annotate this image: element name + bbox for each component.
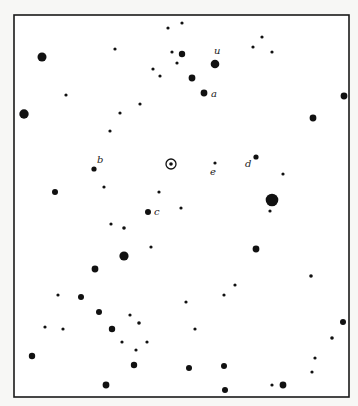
star-dot bbox=[233, 283, 236, 286]
star-dot bbox=[92, 266, 99, 273]
star-dot bbox=[340, 319, 346, 325]
star-dot bbox=[91, 166, 96, 171]
star-dot bbox=[128, 313, 131, 316]
star-dot bbox=[189, 75, 196, 82]
star-dot bbox=[180, 21, 183, 24]
star-dot bbox=[280, 382, 287, 389]
star-dot bbox=[175, 61, 178, 64]
star-dot bbox=[213, 161, 216, 164]
star-dot bbox=[221, 363, 227, 369]
star-dot bbox=[145, 209, 151, 215]
star-dot bbox=[268, 209, 271, 212]
star-dot bbox=[52, 189, 58, 195]
star-dot bbox=[120, 340, 123, 343]
star-dot bbox=[38, 53, 47, 62]
star-dot bbox=[43, 325, 46, 328]
star-dot bbox=[179, 51, 185, 57]
star-dot bbox=[166, 26, 169, 29]
star-dot bbox=[211, 60, 220, 69]
star-dot bbox=[29, 353, 35, 359]
star-dot bbox=[270, 50, 273, 53]
star-dot bbox=[201, 90, 208, 97]
star-dot bbox=[109, 326, 115, 332]
star-dot bbox=[61, 327, 64, 330]
star-dot bbox=[253, 154, 258, 159]
star-dot bbox=[281, 172, 284, 175]
star-dot bbox=[170, 50, 173, 53]
star-dot bbox=[151, 67, 154, 70]
star-dot bbox=[138, 102, 141, 105]
star-dot bbox=[341, 93, 348, 100]
star-dot bbox=[149, 245, 152, 248]
star-dot bbox=[109, 222, 112, 225]
star-dot bbox=[260, 35, 263, 38]
star-dot bbox=[122, 226, 126, 230]
star-dot bbox=[113, 47, 116, 50]
star-map: uabcde bbox=[0, 0, 358, 406]
star-dot bbox=[134, 348, 137, 351]
star-dot bbox=[222, 293, 225, 296]
star-dot bbox=[313, 356, 316, 359]
star-dot bbox=[193, 327, 196, 330]
star-label-d: d bbox=[245, 158, 251, 169]
star-dot bbox=[251, 45, 254, 48]
star-dot bbox=[145, 340, 148, 343]
star-dot bbox=[186, 365, 192, 371]
star-dot bbox=[96, 309, 102, 315]
star-dot bbox=[310, 370, 313, 373]
star-dot bbox=[19, 109, 28, 118]
star-dot bbox=[131, 362, 137, 368]
star-dot bbox=[56, 293, 59, 296]
star-label-e: e bbox=[210, 166, 216, 177]
star-dot bbox=[179, 206, 182, 209]
star-label-c: c bbox=[154, 206, 160, 217]
star-dot bbox=[222, 387, 228, 393]
star-dot bbox=[108, 129, 111, 132]
star-dot bbox=[309, 274, 313, 278]
star-dot bbox=[157, 190, 160, 193]
star-label-a: a bbox=[211, 88, 217, 99]
star-dot bbox=[310, 115, 317, 122]
star-label-b: b bbox=[97, 154, 103, 165]
star-dot bbox=[103, 382, 110, 389]
star-dot bbox=[64, 93, 67, 96]
star-dot bbox=[266, 194, 279, 207]
star-dot bbox=[102, 185, 105, 188]
star-dot bbox=[270, 383, 273, 386]
star-label-u: u bbox=[214, 45, 220, 56]
star-dot bbox=[184, 300, 187, 303]
star-dot bbox=[119, 251, 128, 260]
star-dot bbox=[253, 246, 260, 253]
sun-center-dot bbox=[169, 162, 173, 166]
star-dot bbox=[158, 74, 161, 77]
star-dot bbox=[78, 294, 84, 300]
star-dot bbox=[118, 111, 121, 114]
star-dot bbox=[330, 336, 334, 340]
star-dot bbox=[137, 321, 141, 325]
map-frame bbox=[14, 15, 349, 397]
